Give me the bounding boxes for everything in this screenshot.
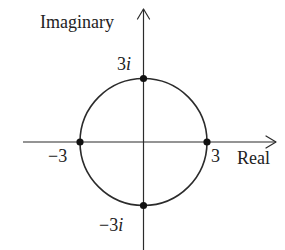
point-3i-label: 3i	[117, 54, 131, 74]
point-neg-3i-unit: i	[118, 215, 123, 235]
point-neg-3i-number: 3	[109, 215, 118, 235]
point-neg-3-dot	[76, 138, 83, 145]
point-3i-unit: i	[126, 54, 131, 74]
point-neg-3i-sign: −	[99, 215, 109, 235]
point-3-label: 3	[211, 146, 220, 166]
imaginary-axis-label: Imaginary	[40, 12, 114, 32]
point-3-dot	[203, 138, 210, 145]
real-axis-label: Real	[237, 148, 270, 168]
point-3i-dot	[140, 75, 147, 82]
point-neg-3-label: −3	[48, 146, 67, 166]
point-3i-number: 3	[117, 54, 126, 74]
point-neg-3i-label: −3i	[99, 215, 123, 235]
complex-plane-diagram: Imaginary Real 3i −3i −3 3	[0, 0, 285, 250]
point-neg-3i-dot	[140, 202, 147, 209]
